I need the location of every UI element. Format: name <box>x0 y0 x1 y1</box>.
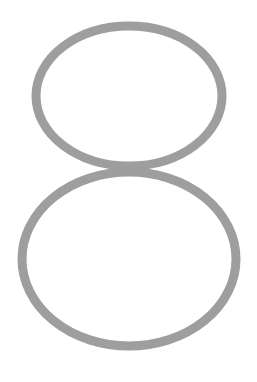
lower-loop <box>22 172 236 346</box>
upper-loop <box>36 26 222 166</box>
digit-eight-figure: 8 <box>0 0 257 382</box>
eight-outline-icon <box>0 0 257 382</box>
